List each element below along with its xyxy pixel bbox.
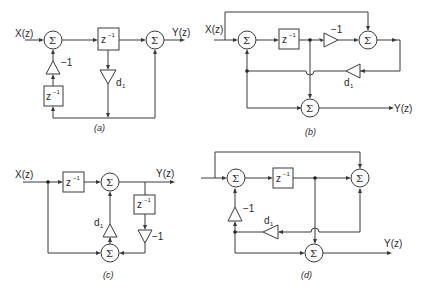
svg-text:−1: −1 [53,89,61,95]
panel-a: X(z) Σ z −1 Σ Y(z) d 1 z −1 [15,27,190,133]
caption: (a) [94,123,105,133]
svg-text:1: 1 [122,83,126,89]
svg-text:d: d [264,215,270,226]
svg-text:z: z [101,34,106,45]
input-label: X(z) [15,28,33,39]
svg-text:z: z [66,177,71,188]
block-diagram-figure: X(z) Σ z −1 Σ Y(z) d 1 z −1 [0,0,423,290]
svg-text:Σ: Σ [232,173,239,184]
svg-text:Σ: Σ [310,248,317,259]
svg-text:−1: −1 [108,32,116,38]
svg-text:Σ: Σ [106,177,113,188]
gain-d1 [103,224,117,237]
svg-text:−1: −1 [283,171,291,177]
svg-text:−1: −1 [144,197,152,203]
svg-text:Σ: Σ [364,35,371,46]
input-label: X(z) [205,24,223,35]
gain-d1 [346,64,360,78]
svg-text:Σ: Σ [106,248,113,259]
svg-text:z: z [282,34,287,45]
output-label: Y(z) [172,27,190,38]
caption: (b) [305,127,316,137]
svg-text:z: z [137,199,142,210]
svg-text:−1: −1 [61,57,73,68]
gain-neg1 [46,61,60,74]
output-label: Y(z) [394,103,412,114]
svg-text:−1: −1 [331,24,343,35]
svg-text:d: d [344,77,350,88]
svg-text:d: d [116,77,122,88]
output-label: Y(z) [384,238,402,249]
gain-neg1 [138,230,152,243]
svg-text:−1: −1 [289,32,297,38]
svg-text:Σ: Σ [306,103,313,114]
svg-text:Σ: Σ [49,35,56,46]
svg-text:1: 1 [350,83,354,89]
panel-c: X(z) z −1 Σ Y(z) z −1 −1 Σ d 1 [15,168,175,280]
svg-text:1: 1 [270,221,274,227]
svg-text:z: z [276,173,281,184]
svg-text:−1: −1 [243,203,255,214]
svg-text:−1: −1 [73,175,81,181]
input-label: X(z) [15,169,33,180]
panel-d: Σ z −1 Σ d 1 −1 Σ Y(z) [201,152,402,280]
gain-d1 [100,70,116,84]
gain-d1 [263,225,278,239]
svg-text:Σ: Σ [356,173,363,184]
svg-text:Σ: Σ [243,35,250,46]
panel-b: X(z) Σ z −1 −1 Σ d 1 [205,12,412,137]
gain-neg1 [324,33,338,47]
svg-text:Σ: Σ [151,35,158,46]
gain-neg1 [228,207,242,221]
output-label: Y(z) [156,168,174,179]
svg-text:−1: −1 [152,231,164,242]
caption: (d) [301,270,312,280]
svg-text:1: 1 [100,223,104,229]
caption: (c) [103,270,114,280]
svg-text:z: z [46,91,51,102]
svg-text:d: d [94,217,100,228]
